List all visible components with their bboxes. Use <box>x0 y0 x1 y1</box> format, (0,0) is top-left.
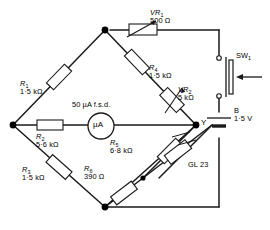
switch-terminal-bottom <box>217 94 222 99</box>
r1-sub: 1 <box>25 83 28 89</box>
component-r4 <box>124 49 149 75</box>
label-vr1: VR1 500 Ω <box>150 9 170 26</box>
component-r3 <box>46 155 72 180</box>
vr2-sub: 2 <box>188 89 191 95</box>
vr1-sub: 1 <box>160 12 163 18</box>
label-r3: R3 1·5 kΩ <box>22 166 45 183</box>
r3-sub: 3 <box>27 169 30 175</box>
switch-press-arrow-head <box>236 74 243 80</box>
node-inner-mid <box>140 175 145 180</box>
node-right-y <box>193 122 200 129</box>
r4-sub: 4 <box>154 67 157 73</box>
label-vr2: VR2 5 kΩ <box>178 86 194 103</box>
label-battery: B 1·5 V <box>234 107 252 124</box>
r6-sub: 6 <box>89 168 92 174</box>
sw1-sub: 1 <box>248 55 251 61</box>
node-left <box>10 122 17 129</box>
label-r4: R4 1·5 kΩ <box>149 64 172 81</box>
r2-sub: 2 <box>41 136 44 142</box>
r6-value: 390 Ω <box>84 172 104 181</box>
r3-value: 1·5 kΩ <box>22 173 45 182</box>
circuit-diagram: R1 1·5 kΩ R2 5·6 kΩ R3 1·5 kΩ R4 1·5 kΩ … <box>0 0 270 230</box>
node-bottom <box>102 204 109 211</box>
sw1-ref: SW <box>236 51 248 60</box>
r6-body <box>111 181 138 205</box>
label-ldr-gl23: GL 23 <box>188 161 208 169</box>
circuit-schematic-svg <box>0 0 270 230</box>
node-top <box>102 27 109 34</box>
label-meter-rating: 50 µA f.s.d. <box>72 101 110 109</box>
label-r1: R1 1·5 kΩ <box>20 80 43 97</box>
component-r6 <box>111 181 138 205</box>
switch-terminal-top <box>217 56 222 61</box>
r1-value: 1·5 kΩ <box>20 87 43 96</box>
component-r1 <box>46 64 71 90</box>
r5-sub: 5 <box>115 142 118 148</box>
r2-value: 5·6 kΩ <box>36 140 59 149</box>
label-meter-symbol: µA <box>93 121 103 130</box>
component-r2 <box>37 120 63 130</box>
label-r6: R6 390 Ω <box>84 165 104 182</box>
r4-value: 1·5 kΩ <box>149 71 172 80</box>
label-sw1: SW1 <box>236 52 251 60</box>
label-r5: R5 6·8 kΩ <box>110 139 133 156</box>
r5-value: 6·8 kΩ <box>110 146 133 155</box>
component-switch-sw1[interactable] <box>217 56 262 99</box>
battery-value: 1·5 V <box>234 114 252 123</box>
label-node-y: Y <box>201 119 206 128</box>
switch-actuator <box>229 60 233 94</box>
label-r2: R2 5·6 kΩ <box>36 133 59 150</box>
component-battery <box>207 118 231 126</box>
